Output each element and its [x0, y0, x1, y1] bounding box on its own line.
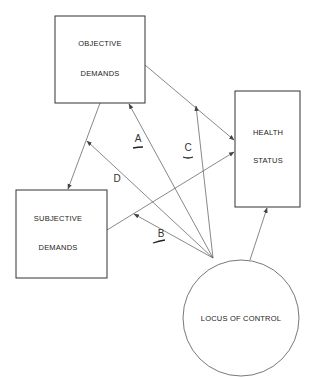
path-label-b: B [153, 228, 165, 243]
path-label-b-text: B [158, 228, 165, 239]
objective-label-line2: DEMANDS [81, 69, 120, 78]
node-objective-demands: OBJECTIVE DEMANDS [55, 16, 145, 103]
path-label-a: A [133, 133, 143, 148]
subjective-label-line2: DEMANDS [39, 243, 78, 252]
edge-locus-to-health [250, 208, 267, 260]
node-health-status: HEALTH STATUS [235, 91, 300, 207]
path-label-c: C [183, 142, 193, 158]
path-label-d-text: D [113, 173, 120, 184]
path-label-a-text: A [135, 133, 142, 144]
node-subjective-demands: SUBJECTIVE DEMANDS [16, 190, 107, 278]
edge-objective-to-subjective [68, 103, 100, 189]
health-label-line1: HEALTH [253, 128, 283, 137]
edge-locus-to-path-C [196, 106, 213, 258]
edge-objective-to-health [145, 65, 234, 140]
objective-label-line1: OBJECTIVE [78, 39, 121, 48]
subjective-label-line1: SUBJECTIVE [34, 214, 82, 223]
locus-label: LOCUS OF CONTROL [201, 314, 281, 323]
path-label-c-text: C [184, 142, 191, 153]
path-diagram: OBJECTIVE DEMANDS HEALTH STATUS SUBJECTI… [0, 0, 314, 377]
node-locus-of-control: LOCUS OF CONTROL [183, 260, 299, 376]
health-label-line2: STATUS [253, 156, 283, 165]
path-label-d: D [113, 173, 120, 184]
